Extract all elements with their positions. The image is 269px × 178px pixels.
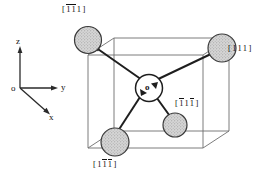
bond-arrowheads-group (92, 45, 176, 127)
center-atom-label: o (145, 83, 150, 92)
axis-label-x: x (49, 113, 54, 122)
cube-edge-connect-br (203, 131, 229, 148)
axis-origin-label: o (11, 84, 16, 93)
atom-inner-right (163, 113, 187, 137)
bond-to-bottom-atom (118, 94, 142, 131)
z-axis-arrowhead (18, 46, 23, 53)
direction-label-bottom: [ 111 ] (93, 160, 117, 169)
direction-label-top-left: [ 111 ] (62, 5, 86, 14)
crystal-direction-diagram (0, 0, 269, 178)
atom-top-left (75, 27, 102, 54)
direction-label-right: [ 111 ] (228, 44, 252, 53)
bond-to-top-left-atom (95, 47, 145, 82)
y-axis-arrowhead (51, 86, 58, 91)
bond-to-right-atom (152, 53, 213, 82)
atom-bottom (101, 128, 129, 156)
axis-label-y: y (61, 83, 66, 92)
x-axis-line (20, 88, 46, 111)
axes-group (18, 46, 58, 115)
axis-label-z: z (16, 37, 20, 46)
direction-label-inner-right: [ 111 ] (175, 99, 199, 108)
